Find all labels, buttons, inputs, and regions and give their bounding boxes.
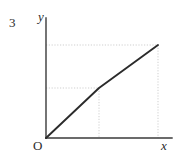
x-axis-label: x xyxy=(161,139,167,152)
grid-lines xyxy=(46,45,158,138)
data-curve xyxy=(46,45,158,138)
graph-figure: 3 y O x xyxy=(0,0,178,160)
origin-label: O xyxy=(33,139,42,152)
plot-canvas xyxy=(0,0,178,160)
y-axis-tick-label-3: 3 xyxy=(9,16,16,29)
y-axis-label: y xyxy=(38,10,44,23)
